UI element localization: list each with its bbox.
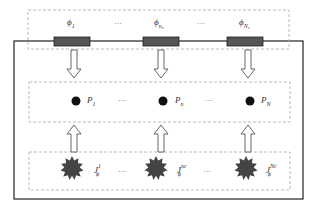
ellipsis: ··· [114,20,122,28]
up-arrow-icon [154,125,168,152]
source-label-1: J1ϕ [94,164,99,177]
point-dot-N [246,97,255,106]
label-subscript: 1 [72,23,75,29]
resistor-N [227,37,263,46]
label-subscript: ϕ [96,171,99,177]
ellipsis: ··· [118,168,126,176]
source-label-Nc: JNcϕ [266,164,271,177]
point-label-1: P1 [87,96,96,107]
down-arrow-icon [241,50,255,78]
point-dot-1 [72,97,81,106]
resistor-n [143,37,179,46]
label-subscript: N [267,101,271,107]
label-subscript: ϕ [178,171,181,177]
ellipsis: ··· [203,168,211,176]
label-subscript: N₀ [244,23,250,29]
ellipsis: ··· [205,97,213,105]
ellipsis: ··· [118,97,126,105]
label-superscript: Nc [270,163,277,169]
label-subscript: ϕ [268,171,271,177]
diagram-canvas [0,0,314,219]
up-arrow-icon [241,125,255,152]
star-source-icon [235,156,258,180]
label-subscript: n₀ [159,23,164,29]
label-subscript: n [181,101,184,107]
label-superscript: nc [181,163,187,169]
ellipsis: ··· [197,20,205,28]
up-arrow-icon [67,125,81,152]
resistor-1 [54,37,90,46]
down-arrow-icon [154,50,168,78]
source-label-nc: Jncϕ [177,164,181,177]
point-label-N: PN [261,96,271,107]
resistor-label-1: ϕ1 [67,18,75,29]
label-superscript: 1 [98,163,101,169]
label-subscript: 1 [93,101,96,107]
resistor-label-n: ϕn₀ [154,18,164,29]
star-source-icon [145,156,168,180]
down-arrow-icon [67,50,81,78]
resistor-label-N: ϕN₀ [239,18,250,29]
point-dot-n [159,97,168,106]
star-source-icon [61,156,84,180]
point-label-n: Pn [175,96,184,107]
